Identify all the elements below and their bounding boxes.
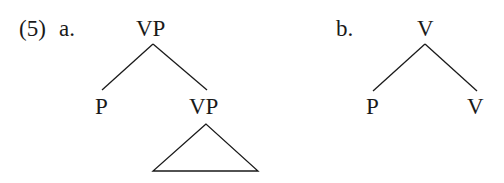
tree-a-right-branch bbox=[153, 44, 207, 90]
tree-a-subtree-triangle bbox=[153, 124, 258, 171]
tree-b-right-branch bbox=[425, 44, 477, 91]
tree-a-left-branch bbox=[102, 44, 153, 90]
tree-b-left-branch bbox=[373, 44, 425, 91]
tree-edges bbox=[0, 0, 504, 183]
